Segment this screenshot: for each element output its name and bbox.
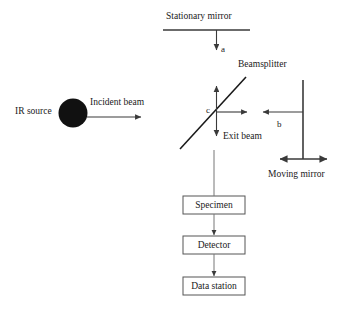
stationary-mirror-label: Stationary mirror — [166, 12, 232, 22]
detector-box-label: Detector — [183, 236, 245, 254]
path-b-label: b — [277, 120, 282, 129]
ir-source-label: IR source — [15, 107, 52, 117]
ir-source-circle — [59, 99, 88, 128]
specimen-box-label: Specimen — [183, 196, 245, 214]
moving-mirror-label: Moving mirror — [268, 170, 325, 180]
data-station-box-label: Data station — [183, 277, 245, 295]
path-a-label: a — [221, 45, 225, 54]
diagram-svg — [0, 0, 349, 311]
path-c-label: c — [206, 106, 210, 115]
exit-beam-label: Exit beam — [223, 132, 262, 142]
incident-beam-label: Incident beam — [90, 98, 144, 108]
beamsplitter-label: Beamsplitter — [238, 60, 287, 70]
diagram-canvas: Stationary mirror a Beamsplitter c Exit … — [0, 0, 349, 311]
